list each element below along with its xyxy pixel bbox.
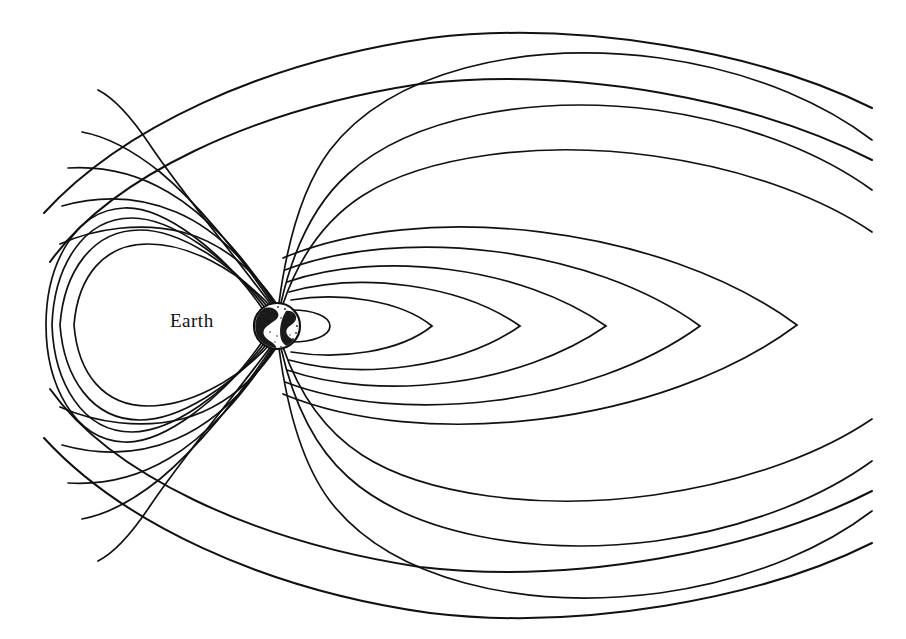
field-line-dayside-closed-loop-2: [60, 230, 270, 420]
field-line-tail-lobe-open-1-upper: [98, 90, 272, 306]
magnetosphere-diagram: [0, 0, 906, 639]
field-line-open-to-tail-2-upper: [281, 105, 872, 303]
earth-label: Earth: [170, 310, 214, 332]
field-line-tail-lobe-open-5-upper: [60, 227, 276, 303]
field-line-open-to-tail-2-lower: [281, 348, 872, 546]
field-line-open-to-tail-3-upper: [283, 150, 872, 304]
field-line-magnetopause-upper: [50, 79, 872, 262]
field-line-magnetopause-lower: [50, 389, 872, 572]
field-line-outer-bow-shock-upper: [44, 33, 872, 213]
field-line-group: [44, 33, 872, 618]
field-line-nightside-closed-loop-1: [291, 297, 432, 355]
field-line-tail-lobe-open-2-upper: [82, 132, 273, 305]
field-line-nightside-closed-loop-5: [283, 227, 797, 424]
field-line-nightside-closed-loop-2: [289, 283, 520, 370]
magnetosphere-figure: Earth: [0, 0, 906, 639]
field-line-open-to-tail-1-upper: [279, 53, 872, 303]
field-line-outer-bow-shock-lower: [44, 438, 872, 618]
field-line-tail-lobe-open-1-lower: [98, 345, 272, 561]
field-line-tail-lobe-open-5-lower: [60, 348, 276, 424]
field-line-nightside-closed-loop-4: [285, 247, 700, 405]
field-line-tail-lobe-open-2-lower: [82, 346, 273, 519]
